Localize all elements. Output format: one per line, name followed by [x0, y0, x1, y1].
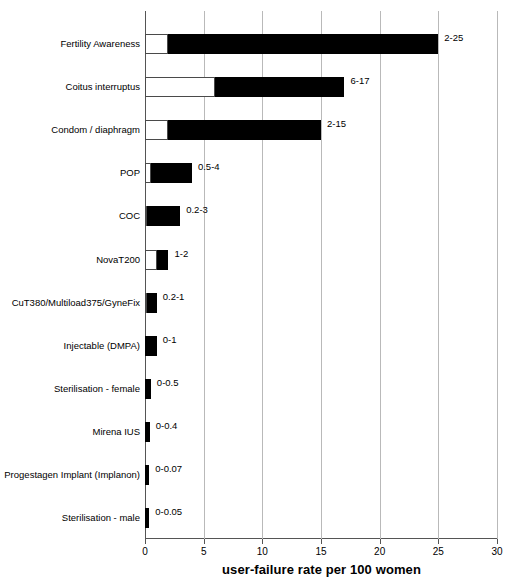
bar-segment-high	[147, 206, 180, 226]
x-tick-label: 5	[189, 546, 219, 558]
x-tick	[262, 539, 263, 544]
bar-value-label: 0-0.05	[155, 506, 182, 517]
x-tick	[497, 539, 498, 544]
category-label: CuT380/Multiload375/GyneFix	[12, 297, 140, 308]
x-tick-label: 30	[482, 546, 512, 558]
bar-segment-high	[157, 250, 169, 270]
bar-row	[145, 250, 497, 270]
category-label: Progestagen Implant (Implanon)	[4, 469, 140, 480]
bar-segment-high	[145, 422, 150, 442]
category-label: NovaT200	[96, 254, 140, 265]
x-tick-label: 25	[423, 546, 453, 558]
x-tick-label: 15	[306, 546, 336, 558]
bar-row	[145, 422, 497, 442]
bar-row	[145, 120, 497, 140]
bar-value-label: 2-15	[327, 118, 346, 129]
bar-value-label: 0-1	[163, 334, 177, 345]
bar-segment-high	[168, 120, 321, 140]
x-tick-label: 20	[365, 546, 395, 558]
x-tick	[438, 539, 439, 544]
bar-segment-high	[145, 379, 151, 399]
bar-segment-high	[145, 465, 149, 485]
bar-value-label: 6-17	[350, 75, 369, 86]
bar-value-label: 0-0.07	[155, 463, 182, 474]
category-label: Sterilisation - female	[54, 383, 140, 394]
category-label: Sterilisation - male	[62, 512, 140, 523]
bar-value-label: 0-0.5	[157, 377, 179, 388]
x-tick	[321, 539, 322, 544]
bar-row	[145, 379, 497, 399]
bar-segment-low	[145, 77, 215, 97]
category-label: COC	[119, 210, 140, 221]
bar-segment-high	[168, 34, 438, 54]
x-tick-label: 0	[130, 546, 160, 558]
category-label: Fertility Awareness	[60, 38, 140, 49]
category-label: Coitus interruptus	[66, 81, 140, 92]
x-tick	[380, 539, 381, 544]
bar-row	[145, 508, 497, 528]
bar-segment-high	[151, 163, 192, 183]
category-label: Condom / diaphragm	[51, 124, 140, 135]
bar-row	[145, 465, 497, 485]
category-label: Injectable (DMPA)	[64, 340, 140, 351]
bar-value-label: 0.5-4	[198, 161, 220, 172]
bar-row	[145, 336, 497, 356]
bar-value-label: 0.2-3	[186, 204, 208, 215]
x-tick-label: 10	[247, 546, 277, 558]
category-label: Mirena IUS	[92, 426, 140, 437]
x-axis-title: user-failure rate per 100 women	[145, 562, 498, 577]
bar-value-label: 0-0.4	[156, 420, 178, 431]
x-tick	[145, 539, 146, 544]
bar-segment-high	[215, 77, 344, 97]
x-tick	[204, 539, 205, 544]
bar-segment-high	[145, 508, 149, 528]
bar-row	[145, 77, 497, 97]
bar-segment-low	[145, 34, 168, 54]
bar-value-label: 1-2	[174, 248, 188, 259]
bar-segment-high	[145, 336, 157, 356]
bar-value-label: 0.2-1	[163, 291, 185, 302]
category-label: POP	[120, 167, 140, 178]
gridline	[497, 11, 498, 539]
bar-value-label: 2-25	[444, 32, 463, 43]
bar-segment-low	[145, 250, 157, 270]
bar-chart: 051015202530 Fertility AwarenessCoitus i…	[0, 0, 520, 585]
bar-segment-high	[147, 293, 156, 313]
bar-row	[145, 293, 497, 313]
bar-segment-low	[145, 120, 168, 140]
